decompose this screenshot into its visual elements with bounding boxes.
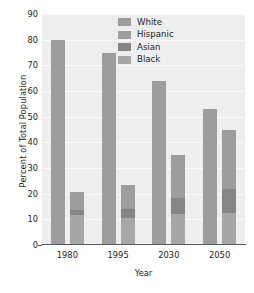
legend-swatch-white	[118, 18, 131, 26]
y-axis-tick-mark	[38, 245, 42, 246]
bar-white-2030	[152, 81, 166, 245]
bar-minority-stack-1980	[70, 192, 84, 245]
bar-white-1980	[51, 40, 65, 245]
bar-segment-asian-2050	[222, 189, 236, 213]
bar-segment-hispanic-2030	[171, 155, 185, 197]
bar-segment-black-1995	[121, 218, 135, 245]
x-axis-tick-label-2030: 2030	[144, 250, 194, 260]
y-axis-tick-labels: 0102030405060708090	[12, 0, 38, 293]
legend-item-hispanic: Hispanic	[118, 29, 202, 42]
legend-swatch-hispanic	[118, 31, 131, 39]
x-axis-tick-label-1980: 1980	[42, 250, 92, 260]
y-axis-tick-label: 10	[16, 215, 38, 223]
legend-label-black: Black	[137, 55, 160, 64]
x-axis-title: Year	[42, 268, 245, 278]
x-axis-tick-label-1995: 1995	[93, 250, 143, 260]
y-axis-tick-label: 80	[16, 36, 38, 44]
bar-white-2050	[203, 109, 217, 245]
bar-segment-hispanic-2050	[222, 130, 236, 189]
bar-minority-stack-1995	[121, 185, 135, 245]
legend-item-asian: Asian	[118, 41, 202, 54]
y-axis-tick-label: 30	[16, 164, 38, 172]
gridline	[42, 14, 245, 15]
bar-white-1995	[102, 53, 116, 246]
bar-chart: Percent of Total Population 010203040506…	[0, 0, 254, 293]
bar-segment-hispanic-1980	[70, 192, 84, 210]
legend-swatch-asian	[118, 43, 131, 51]
y-axis-tick-label: 60	[16, 87, 38, 95]
legend-item-white: White	[118, 16, 202, 29]
y-axis-tick-label: 40	[16, 138, 38, 146]
legend-label-white: White	[137, 18, 162, 27]
legend-label-hispanic: Hispanic	[137, 30, 174, 39]
y-axis-tick-label: 90	[16, 10, 38, 18]
y-axis-tick-label: 20	[16, 190, 38, 198]
bar-segment-black-1980	[70, 215, 84, 245]
y-axis-tick-label: 70	[16, 61, 38, 69]
y-axis-tick-label: 0	[16, 241, 38, 249]
bar-segment-asian-1995	[121, 209, 135, 218]
bar-segment-black-2030	[171, 214, 185, 245]
x-axis-line	[42, 244, 246, 245]
legend: WhiteHispanicAsianBlack	[118, 16, 202, 66]
bar-minority-stack-2030	[171, 155, 185, 245]
y-axis-tick-label: 50	[16, 113, 38, 121]
bar-segment-black-2050	[222, 213, 236, 245]
gridline	[42, 91, 245, 92]
bar-minority-stack-2050	[222, 130, 236, 246]
x-axis-tick-label-2050: 2050	[195, 250, 245, 260]
bar-segment-asian-2030	[171, 198, 185, 215]
legend-label-asian: Asian	[137, 43, 160, 52]
legend-item-black: Black	[118, 54, 202, 67]
bar-segment-hispanic-1995	[121, 185, 135, 209]
legend-swatch-black	[118, 56, 131, 64]
